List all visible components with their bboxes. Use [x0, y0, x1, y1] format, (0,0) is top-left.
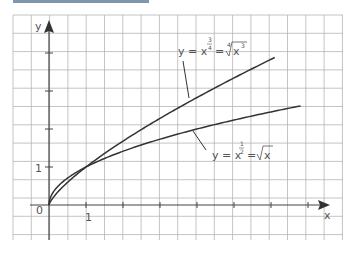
svg-text:x: x: [264, 149, 271, 162]
y-tick-label-1: 1: [35, 162, 42, 175]
svg-text:2: 2: [240, 148, 244, 155]
svg-text:y = x: y = x: [212, 149, 242, 162]
svg-text:3: 3: [241, 42, 245, 49]
curve-x-three-quarters: [49, 58, 275, 206]
axis-ticks: [45, 53, 308, 208]
svg-text:4: 4: [208, 44, 212, 51]
svg-text:1: 1: [240, 140, 244, 147]
leader-line-sqrt-x: [193, 131, 206, 150]
x-tick-label-1: 1: [85, 211, 92, 224]
svg-text:x: x: [233, 45, 240, 58]
leader-line-x-three-quarters: [183, 61, 189, 98]
function-graph: y x 0 1 1 y = x 3 4 = 4 x 3 y = x 1 2 = …: [0, 0, 357, 255]
svg-text:3: 3: [208, 36, 212, 43]
x-axis-label: x: [324, 209, 331, 222]
svg-text:4: 4: [227, 41, 231, 48]
svg-text:=: =: [247, 149, 256, 162]
curve-sqrt-x: [49, 106, 301, 205]
y-axis-label: y: [35, 20, 42, 33]
svg-text:=: =: [215, 45, 224, 58]
origin-label: 0: [36, 204, 43, 217]
label-x-three-quarters: y = x 3 4 = 4 x 3: [178, 36, 247, 58]
svg-text:y = x: y = x: [178, 45, 208, 58]
x-axis: [30, 200, 330, 210]
